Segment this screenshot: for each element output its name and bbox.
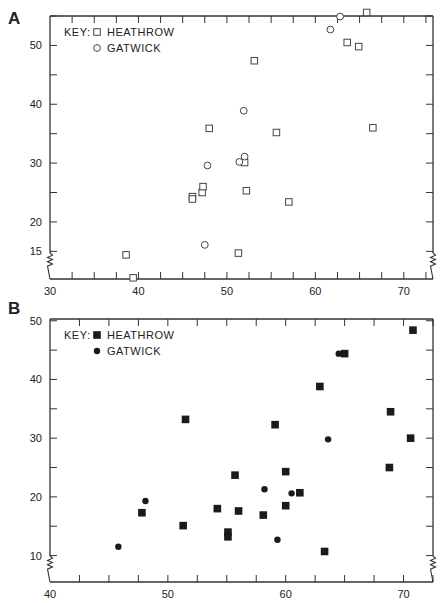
data-point (296, 489, 304, 497)
data-point (214, 505, 222, 513)
legend-label: HEATHROW (107, 26, 174, 38)
y-tick-label: 30 (30, 432, 42, 444)
data-point (274, 537, 280, 543)
data-point (251, 57, 257, 64)
data-point (200, 183, 207, 190)
y-tick-label: 20 (30, 216, 42, 228)
data-point (243, 187, 250, 194)
data-point (179, 522, 187, 530)
data-point (271, 421, 279, 429)
y-tick-label: 40 (30, 373, 42, 385)
data-point (282, 502, 290, 510)
data-point (261, 486, 267, 492)
legend: KEY:HEATHROWGATWICK (64, 26, 174, 54)
data-point (231, 471, 239, 479)
series-heathrow (138, 326, 417, 555)
axis-break-left (48, 556, 53, 582)
data-point (273, 129, 280, 136)
data-point (325, 436, 331, 442)
data-point (321, 548, 329, 556)
data-point (236, 159, 243, 166)
legend: KEY:HEATHROWGATWICK (64, 329, 174, 357)
legend-label: HEATHROW (107, 329, 174, 341)
scatter-plot-a: A30405060701520304050KEY:HEATHROWGATWICK (0, 0, 441, 300)
series-gatwick (115, 350, 342, 550)
legend-marker-icon (94, 45, 101, 52)
legend-marker-icon (93, 331, 101, 339)
panel-label: A (8, 9, 20, 28)
data-point (189, 196, 196, 203)
x-tick-label: 60 (309, 285, 321, 297)
y-tick-label: 50 (30, 39, 42, 51)
data-point (355, 43, 362, 50)
data-point (336, 350, 342, 356)
x-tick-label: 70 (397, 588, 409, 600)
data-point (123, 252, 129, 259)
x-tick-label: 40 (132, 285, 144, 297)
data-point (363, 9, 370, 16)
axis-break-left (48, 253, 53, 279)
data-point (386, 464, 394, 472)
y-tick-label: 20 (30, 491, 42, 503)
data-point (130, 275, 137, 282)
series-gatwick (201, 13, 343, 248)
data-point (115, 544, 121, 550)
data-point (206, 125, 213, 132)
legend-marker-icon (94, 29, 101, 36)
data-point (182, 416, 190, 424)
y-tick-label: 10 (30, 550, 42, 562)
data-point (260, 511, 268, 519)
data-point (341, 350, 349, 358)
data-point (288, 490, 294, 496)
data-point (201, 241, 208, 248)
legend-marker-icon (94, 348, 100, 354)
x-tick-label: 30 (44, 285, 56, 297)
x-tick-label: 50 (162, 588, 174, 600)
data-point (387, 408, 395, 416)
data-point (407, 434, 415, 442)
x-tick-label: 70 (398, 285, 410, 297)
data-point (327, 26, 334, 33)
data-point (235, 507, 243, 515)
data-point (370, 125, 377, 131)
legend-title: KEY: (64, 26, 90, 38)
y-tick-label: 40 (30, 98, 42, 110)
data-point (337, 13, 344, 20)
data-point (409, 326, 417, 334)
data-point (344, 39, 351, 46)
figure: A30405060701520304050KEY:HEATHROWGATWICK… (0, 0, 441, 603)
x-tick-label: 60 (280, 588, 292, 600)
data-point (204, 162, 211, 169)
data-point (142, 498, 148, 504)
data-point (138, 509, 146, 517)
data-point (241, 153, 248, 160)
data-point (286, 199, 293, 206)
scatter-plot-b: B405060701020304050KEY:HEATHROWGATWICK (0, 300, 441, 603)
data-point (316, 383, 324, 391)
axis-break-right (431, 253, 436, 279)
y-tick-label: 15 (30, 245, 42, 257)
legend-title: KEY: (64, 329, 90, 341)
data-point (240, 107, 247, 114)
data-point (282, 468, 290, 476)
x-tick-label: 40 (44, 588, 56, 600)
y-tick-label: 50 (30, 315, 42, 327)
panel-label: B (8, 300, 20, 318)
data-point (224, 533, 232, 541)
x-tick-label: 50 (221, 285, 233, 297)
legend-label: GATWICK (107, 42, 161, 54)
y-tick-label: 30 (30, 157, 42, 169)
legend-label: GATWICK (107, 345, 161, 357)
data-point (235, 250, 242, 257)
